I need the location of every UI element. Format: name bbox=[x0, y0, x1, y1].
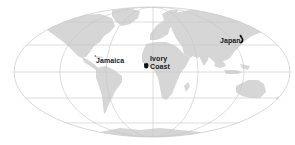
label-jamaica: Jamaica bbox=[96, 57, 124, 64]
label-ivory-coast-line1: Ivory bbox=[150, 55, 170, 63]
world-map: Jamaica Ivory Coast Japan bbox=[0, 0, 295, 145]
label-japan: Japan bbox=[220, 37, 241, 44]
label-ivory-coast-line2: Coast bbox=[150, 63, 170, 71]
ivory-coast-marker bbox=[144, 63, 149, 69]
graticule bbox=[0, 0, 295, 145]
label-ivory-coast: Ivory Coast bbox=[150, 55, 170, 70]
map-canvas bbox=[0, 0, 295, 145]
